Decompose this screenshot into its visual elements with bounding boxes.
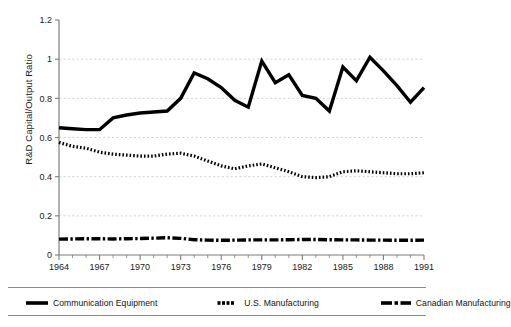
y-tick-label: 0.4 bbox=[39, 172, 52, 182]
x-tick-label: 1988 bbox=[373, 262, 393, 272]
x-tick-label: 1991 bbox=[414, 262, 434, 272]
y-tick-label: 0.2 bbox=[39, 211, 52, 221]
gridlines-group bbox=[59, 59, 424, 216]
x-tick-label: 1973 bbox=[171, 262, 191, 272]
x-tick-label: 1967 bbox=[90, 262, 110, 272]
legend-item-us-manufacturing[interactable]: U.S. Manufacturing bbox=[217, 298, 318, 308]
y-tick-label: 0 bbox=[47, 250, 52, 260]
legend-item-communication-equipment[interactable]: Communication Equipment bbox=[26, 298, 157, 308]
chart-legend: Communication Equipment U.S. Manufacturi… bbox=[0, 292, 434, 314]
data-series-group bbox=[59, 57, 424, 240]
legend-divider-bottom bbox=[8, 315, 426, 316]
solid-line-swatch-icon bbox=[26, 299, 48, 307]
dash-dot-line-swatch-icon bbox=[381, 299, 411, 307]
y-axis-label: R&D Capital/Output Ratio bbox=[23, 20, 34, 200]
x-tick-label: 1976 bbox=[211, 262, 231, 272]
y-tick-group: 00.20.40.60.811.2 bbox=[39, 15, 59, 260]
y-tick-label: 1.2 bbox=[39, 15, 52, 25]
y-tick-label: 0.6 bbox=[39, 133, 52, 143]
x-tick-group: 1964196719701973197619791982198519881991 bbox=[49, 255, 434, 272]
x-tick-label: 1970 bbox=[130, 262, 150, 272]
line-chart-svg: 00.20.40.60.811.2 1964196719701973197619… bbox=[0, 0, 434, 290]
legend-label-communication-equipment: Communication Equipment bbox=[53, 298, 157, 308]
x-tick-label: 1982 bbox=[292, 262, 312, 272]
series-line-canadian-manufacturing bbox=[59, 238, 424, 241]
x-tick-label: 1979 bbox=[252, 262, 272, 272]
dotted-line-swatch-icon bbox=[217, 299, 239, 307]
y-tick-label: 1 bbox=[47, 54, 52, 64]
y-tick-label: 0.8 bbox=[39, 94, 52, 104]
series-line-u-s-manufacturing bbox=[59, 142, 424, 177]
series-line-communication-equipment bbox=[59, 57, 424, 129]
legend-divider-top bbox=[8, 287, 426, 288]
legend-label-canadian-manufacturing: Canadian Manufacturing bbox=[416, 298, 511, 308]
legend-item-canadian-manufacturing[interactable]: Canadian Manufacturing bbox=[381, 298, 511, 308]
x-tick-label: 1964 bbox=[49, 262, 69, 272]
plot-area-container: R&D Capital/Output Ratio 00.20.40.60.811… bbox=[0, 0, 434, 290]
x-tick-label: 1985 bbox=[333, 262, 353, 272]
footnote-text bbox=[8, 317, 428, 327]
legend-label-us-manufacturing: U.S. Manufacturing bbox=[244, 298, 318, 308]
